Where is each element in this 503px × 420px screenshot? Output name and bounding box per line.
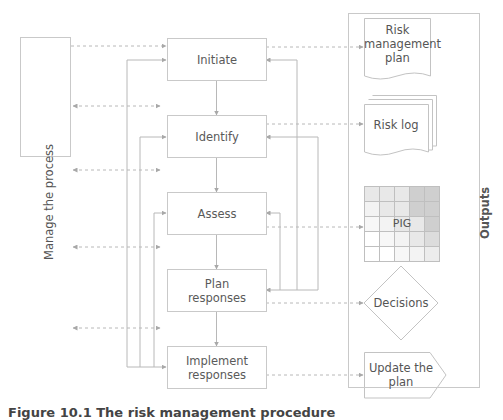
manage-process-label: Manage the process [42,144,56,260]
output-risk-log[interactable]: Risk log [364,118,428,132]
step-identify[interactable]: Identify [167,115,267,158]
step-plan-label-2: responses [188,291,246,305]
rmp-line3: plan [364,51,431,65]
step-assess-label: Assess [198,207,237,221]
decisions-label: Decisions [374,296,429,310]
outputs-title: Outputs [478,187,492,239]
step-implement-label-1: Implement [186,354,248,368]
step-initiate[interactable]: Initiate [167,38,267,81]
step-identify-label: Identify [195,130,238,144]
manage-process-box[interactable] [20,37,71,157]
update-line2: plan [364,375,438,389]
figure-caption: Figure 10.1 The risk management procedur… [8,405,335,420]
step-plan-label-1: Plan [205,277,229,291]
step-implement-label-2: responses [188,368,246,382]
step-initiate-label: Initiate [197,53,237,67]
output-update-plan[interactable]: Update the plan [364,361,438,389]
rmp-line1: Risk [364,23,431,37]
output-risk-management-plan[interactable]: Risk management plan [364,23,431,65]
step-assess[interactable]: Assess [167,192,267,235]
risk-log-label: Risk log [373,118,418,132]
step-implement-responses[interactable]: Implement responses [167,346,267,389]
pig-label: PIG [393,217,411,230]
output-pig[interactable]: PIG [388,217,416,231]
outputs-panel [348,13,480,388]
rmp-line2: management [364,37,431,51]
output-decisions[interactable]: Decisions [364,296,438,310]
step-plan-responses[interactable]: Plan responses [167,269,267,312]
update-line1: Update the [364,361,438,375]
